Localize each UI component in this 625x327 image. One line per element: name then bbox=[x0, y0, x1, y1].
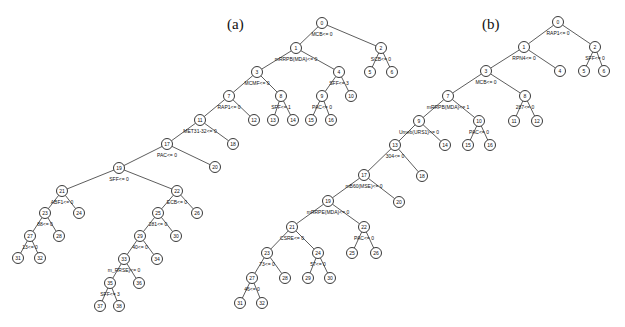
split-condition: RAP1<= 0 bbox=[217, 104, 240, 110]
tree-edge bbox=[124, 170, 172, 189]
tree-node: 4SFF<= 3 bbox=[329, 67, 349, 87]
split-condition: 281<= 0 bbox=[149, 221, 168, 227]
tree-node: 12 bbox=[249, 115, 260, 126]
split-condition: SCB<= 0 bbox=[371, 56, 392, 62]
node-id: 2 bbox=[380, 45, 383, 51]
node-id: 6 bbox=[603, 68, 606, 74]
node-id: 10 bbox=[476, 118, 482, 124]
node-id: 8 bbox=[280, 93, 283, 99]
tree-node: 36 bbox=[134, 278, 145, 289]
split-condition: ECB<= 0 bbox=[167, 199, 188, 205]
tree-node: 9PAC<= 0 bbox=[312, 91, 332, 111]
tree-node: 6 bbox=[599, 66, 610, 77]
node-id: 32 bbox=[37, 255, 43, 261]
tree-node: 31 bbox=[13, 253, 24, 264]
panel-label-b: (b) bbox=[482, 16, 500, 33]
tree-node: 30 bbox=[171, 231, 182, 242]
split-condition: MCB<= 0 bbox=[475, 79, 496, 85]
tree-node: 25 bbox=[347, 248, 358, 259]
tree-node: 13 bbox=[268, 115, 279, 126]
tree-node: 21ABF1<= 0 bbox=[51, 186, 74, 206]
node-id: 28 bbox=[56, 233, 62, 239]
node-id: 33 bbox=[121, 256, 127, 262]
node-id: 18 bbox=[419, 173, 425, 179]
split-condition: 287<= 0 bbox=[516, 104, 535, 110]
decision-tree-figure: 0MCB<= 01mRRPB(MDA)<= 02SCB<= 03MCMF<= 0… bbox=[0, 0, 625, 327]
node-id: 1 bbox=[523, 44, 526, 50]
tree-node: 24 bbox=[74, 208, 85, 219]
tree-node: 3MCMF<= 0 bbox=[244, 67, 269, 87]
node-id: 27 bbox=[27, 233, 33, 239]
tree-node: 12 bbox=[532, 116, 543, 127]
node-id: 21 bbox=[59, 188, 65, 194]
node-id: 24 bbox=[76, 210, 82, 216]
split-condition: m_RRSE)<= 0 bbox=[108, 267, 141, 273]
split-condition: CSRE<= 0 bbox=[280, 235, 304, 241]
node-id: 9 bbox=[418, 118, 421, 124]
node-id: 14 bbox=[442, 142, 448, 148]
node-id: 12 bbox=[251, 117, 257, 123]
tree-a-nodes: 0MCB<= 01mRRPB(MDA)<= 02SCB<= 03MCMF<= 0… bbox=[13, 18, 398, 312]
split-condition: 46<= 0 bbox=[244, 286, 260, 292]
split-condition: ABF1<= 0 bbox=[51, 199, 74, 205]
node-id: 30 bbox=[173, 233, 179, 239]
split-condition: MCMF<= 0 bbox=[244, 80, 269, 86]
node-id: 8 bbox=[524, 93, 527, 99]
split-condition: PAC<= 0 bbox=[312, 104, 332, 110]
node-id: 17 bbox=[164, 141, 170, 147]
tree-node: 20 bbox=[394, 197, 405, 208]
tree-node: 19SFF<= 0 bbox=[109, 163, 129, 183]
node-id: 18 bbox=[230, 141, 236, 147]
node-id: 15 bbox=[308, 117, 314, 123]
node-id: 5 bbox=[369, 69, 372, 75]
node-id: 11 bbox=[511, 118, 516, 124]
tree-node: 17PAC<= 0 bbox=[157, 139, 177, 159]
tree-node: 0RAP1<= 0 bbox=[546, 17, 569, 37]
node-id: 6 bbox=[391, 69, 394, 75]
tree-node: 3MCB<= 0 bbox=[475, 66, 496, 86]
split-condition: 88<= 0 bbox=[37, 221, 53, 227]
tree-node: 17mB60(MSE)<= 0 bbox=[345, 170, 382, 190]
split-condition: 304<= 0 bbox=[386, 153, 405, 159]
tree-node: 0MCB<= 0 bbox=[311, 18, 332, 38]
node-id: 15 bbox=[465, 142, 471, 148]
tree-node: 38 bbox=[114, 301, 125, 312]
split-condition: 13<= 0 bbox=[22, 244, 38, 250]
tree-node: 11MET31-32<= 0 bbox=[183, 115, 217, 135]
tree-node: 6 bbox=[387, 67, 398, 78]
tree-node: 11 bbox=[509, 116, 520, 127]
split-condition: mRRPB(MDA)<= 0 bbox=[275, 56, 318, 62]
split-condition: RPN4<= 0 bbox=[512, 55, 536, 61]
split-condition: Umeb(URS1)<= 0 bbox=[399, 129, 439, 135]
tree-node: 14 bbox=[440, 140, 451, 151]
node-id: 19 bbox=[325, 198, 331, 204]
node-id: 3 bbox=[485, 68, 488, 74]
tree-edge bbox=[172, 146, 210, 164]
node-id: 22 bbox=[174, 188, 180, 194]
node-id: 35 bbox=[107, 280, 113, 286]
node-id: 29 bbox=[137, 233, 143, 239]
node-id: 1 bbox=[295, 45, 298, 51]
node-id: 5 bbox=[583, 68, 586, 74]
node-id: 3 bbox=[256, 69, 259, 75]
tree-node: 22PAC<= 0 bbox=[354, 222, 374, 242]
tree-node: 15 bbox=[306, 115, 317, 126]
node-id: 32 bbox=[259, 300, 265, 306]
tree-node: 32 bbox=[35, 253, 46, 264]
tree-node: 33m_RRSE)<= 0 bbox=[108, 254, 141, 274]
tree-node: 34 bbox=[152, 254, 163, 265]
tree-node: 13304<= 0 bbox=[386, 140, 405, 160]
node-id: 19 bbox=[116, 165, 122, 171]
tree-node: 1mRRPB(MDA)<= 0 bbox=[275, 43, 318, 63]
split-condition: RAP1<= 0 bbox=[546, 30, 569, 36]
tree-node: 25281<= 0 bbox=[149, 208, 168, 228]
split-condition: PAC<= 0 bbox=[354, 235, 374, 241]
split-condition: SFF<= 3 bbox=[329, 80, 349, 86]
split-condition: SFF<= 1 bbox=[271, 104, 291, 110]
tree-node: 19mRRPE(MDA)<= 0 bbox=[307, 196, 350, 216]
node-id: 10 bbox=[348, 93, 354, 99]
tree-b-edges bbox=[242, 25, 602, 298]
tree-node: 9Umeb(URS1)<= 0 bbox=[399, 116, 439, 136]
tree-node: 32 bbox=[257, 298, 268, 309]
split-condition: 40<= 0 bbox=[132, 244, 148, 250]
